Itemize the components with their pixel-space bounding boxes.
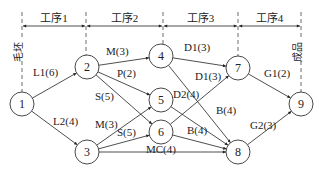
edge-label: G2(3) xyxy=(250,119,277,132)
edge-6-7 xyxy=(170,76,229,125)
node-number: 4 xyxy=(158,49,164,63)
stage-label: 工序2 xyxy=(111,11,139,24)
node-number: 5 xyxy=(158,93,164,107)
start-label: 毛坯 xyxy=(13,42,24,62)
edge-label: MC(4) xyxy=(146,143,176,156)
node-4: 4 xyxy=(149,44,173,68)
stage-headers: 工序1工序2工序3工序4 xyxy=(23,11,300,26)
edge-label: L2(4) xyxy=(53,115,78,128)
node-3: 3 xyxy=(75,140,99,164)
node-number: 1 xyxy=(19,97,25,111)
node-number: 3 xyxy=(84,145,90,159)
edge-label: B(4) xyxy=(187,124,208,137)
node-number: 9 xyxy=(298,97,304,111)
edge-label: D1(3) xyxy=(195,70,222,83)
node-number: 6 xyxy=(158,125,164,139)
edge-label: G1(2) xyxy=(264,67,291,80)
edge-2-4 xyxy=(99,58,149,65)
stage-label: 工序3 xyxy=(187,11,215,24)
process-network-diagram: 工序1工序2工序3工序4 L1(6)L2(4)M(3)P(2)S(5)M(3)S… xyxy=(0,0,319,174)
end-label: 成品 xyxy=(292,42,303,62)
edge-6-8 xyxy=(173,135,227,149)
edge-label: L1(6) xyxy=(33,66,58,79)
edge-label: D2(4) xyxy=(173,88,200,101)
edge-label: M(3) xyxy=(95,118,118,131)
node-number: 8 xyxy=(235,145,241,159)
edge-4-7 xyxy=(173,58,226,66)
edge-label: B(4) xyxy=(216,104,237,117)
node-5: 5 xyxy=(149,88,173,112)
node-number: 7 xyxy=(235,61,241,75)
edge-label: S(5) xyxy=(95,90,114,103)
edge-label: S(5) xyxy=(117,126,136,139)
edge-label: P(2) xyxy=(117,67,136,80)
node-8: 8 xyxy=(226,140,250,164)
node-2: 2 xyxy=(75,55,99,79)
node-9: 9 xyxy=(289,92,313,116)
node-1: 1 xyxy=(10,92,34,116)
node-7: 7 xyxy=(226,56,250,80)
node-number: 2 xyxy=(84,60,90,74)
node-6: 6 xyxy=(149,120,173,144)
stage-label: 工序4 xyxy=(256,11,284,24)
edge-label: D1(3) xyxy=(184,41,211,54)
edge-label: M(3) xyxy=(106,45,129,58)
stage-label: 工序1 xyxy=(40,11,68,24)
